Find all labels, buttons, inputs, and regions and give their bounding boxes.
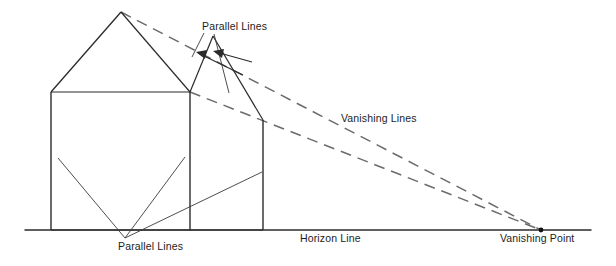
label-horizon-line: Horizon Line — [300, 233, 361, 244]
label-vanishing-point: Vanishing Point — [500, 233, 574, 244]
house-side-wall — [190, 120, 263, 230]
gable-left-slope — [51, 12, 121, 92]
leaders-bottom-group — [58, 157, 262, 238]
perspective-diagram: Parallel Lines Parallel Lines Vanishing … — [0, 0, 616, 266]
parallel-arrow-lower-head — [196, 50, 207, 59]
parallel-arrow-upper-head — [213, 49, 224, 58]
diagram-canvas — [0, 0, 616, 266]
house-side-gable — [190, 36, 263, 120]
top-arrows-group — [196, 49, 252, 75]
vanishing-lines-group — [121, 12, 541, 230]
label-parallel-lines-top: Parallel Lines — [202, 21, 267, 32]
house-front-facade — [51, 92, 190, 230]
leader-top-right — [214, 34, 229, 93]
vanishing-ray-from-apex — [121, 12, 541, 230]
label-vanishing-lines: Vanishing Lines — [341, 113, 417, 124]
side-gable-ridge-up — [190, 36, 213, 92]
leader-bottom-to-middle-wall — [125, 157, 185, 238]
gable-right-slope — [121, 12, 190, 92]
leader-bottom-to-right-wall — [125, 172, 262, 238]
label-parallel-lines-bottom: Parallel Lines — [118, 241, 183, 252]
side-gable-slope-down — [213, 36, 263, 120]
leader-bottom-to-left-wall — [58, 158, 125, 238]
house-front-gable — [51, 12, 190, 92]
